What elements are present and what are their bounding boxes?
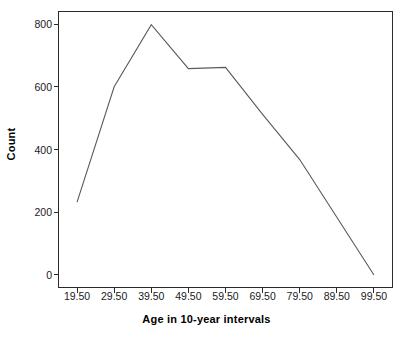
- x-tick-label: 59.50: [212, 291, 238, 302]
- x-tick-label: 89.50: [324, 291, 350, 302]
- x-tick-label: 19.50: [64, 291, 90, 302]
- plot-area: [0, 0, 413, 340]
- axis-frame: [59, 12, 393, 288]
- x-tick-label: 29.50: [101, 291, 127, 302]
- data-series-line: [77, 25, 374, 275]
- x-tick-label: 49.50: [175, 291, 201, 302]
- chart-figure: Count 0200400600800 19.5029.5039.5049.50…: [0, 0, 413, 340]
- x-tick-label: 99.50: [361, 291, 387, 302]
- x-tick-label: 69.50: [249, 291, 275, 302]
- y-tick-marks: [54, 24, 59, 275]
- x-tick-label: 79.50: [287, 291, 313, 302]
- x-tick-label: 39.50: [138, 291, 164, 302]
- x-axis-title: Age in 10-year intervals: [0, 313, 413, 325]
- x-axis-tick-labels: 19.5029.5039.5049.5059.5069.5079.5089.50…: [0, 291, 413, 307]
